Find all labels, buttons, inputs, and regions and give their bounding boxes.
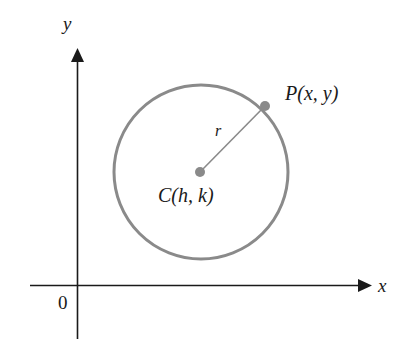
circle-point-label: P(x, y) (285, 83, 338, 103)
y-axis-arrowhead-icon (71, 48, 84, 62)
origin-label: 0 (58, 293, 68, 312)
circle-diagram (0, 0, 408, 339)
center-point-dot (195, 167, 205, 177)
y-axis-label: y (63, 14, 71, 33)
radius-segment (200, 106, 265, 172)
radius-label: r (215, 123, 221, 139)
circle-point-dot (260, 101, 270, 111)
center-point-label: C(h, k) (158, 185, 214, 205)
x-axis-label: x (378, 276, 386, 295)
x-axis-arrowhead-icon (358, 279, 372, 292)
